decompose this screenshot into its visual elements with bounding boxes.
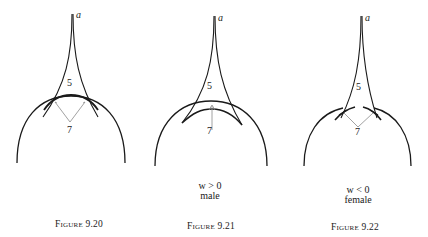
cusp-label-a: a [76, 10, 81, 20]
region-label-7: 7 [207, 126, 212, 136]
cusp-label-a: a [218, 13, 223, 23]
figure-9-20: a 5 7 Figure 9.20 [0, 0, 145, 237]
figure-9-20-drawing [0, 0, 145, 237]
figure-caption: Figure 9.20 [55, 219, 103, 229]
figure-9-22: a 5 7 w < 0 female Figure 9.22 [285, 0, 428, 237]
region-label-7: 7 [355, 127, 360, 137]
region-label-5: 5 [207, 81, 212, 91]
figure-caption: Figure 9.22 [331, 222, 379, 232]
condition-sex: male [180, 191, 240, 201]
condition-label: w > 0 male [180, 181, 240, 201]
region-label-7: 7 [67, 125, 72, 135]
region-label-5: 5 [356, 82, 361, 92]
figure-9-21-drawing [145, 0, 285, 237]
cusp-label-a: a [365, 13, 370, 23]
condition-sex: female [328, 195, 388, 205]
figure-9-21: a 5 7 w > 0 male Figure 9.21 [145, 0, 285, 237]
region-label-5: 5 [67, 78, 72, 88]
condition-label: w < 0 female [328, 185, 388, 205]
figure-caption: Figure 9.21 [187, 221, 235, 231]
